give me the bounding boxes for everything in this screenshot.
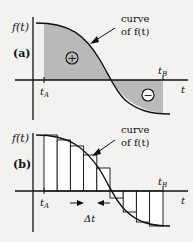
y-axis-label-a: f(t) [11,21,29,34]
delta-right-arrowhead [97,200,104,206]
rectangle [97,168,110,191]
x-axis-label-b: t [181,195,186,206]
curve-label-b-line1: curve [121,124,149,135]
t-b-label-a: tB [158,65,167,78]
integral-diagram: + − f(t) (a) curve of f(t) tA tB t [0,0,193,242]
rectangle [44,135,57,191]
plus-symbol: + [67,52,76,65]
arrowhead-b [92,148,101,156]
t-a-label-a: tA [40,86,49,99]
rectangle [123,191,136,212]
curve-label-a-line2: of f(t) [121,26,150,37]
delta-left-arrowhead [77,200,84,206]
rectangle [136,191,149,222]
panel-b: f(t) (b) curve of f(t) tA tB t Δt [11,124,188,232]
x-axis-label-a: t [181,84,186,95]
rectangle [70,146,83,191]
rectangle [150,191,163,226]
diagram-canvas: + − f(t) (a) curve of f(t) tA tB t [0,0,193,242]
curve-label-b-line2: of f(t) [121,137,150,148]
positive-area [44,23,112,80]
rectangle [57,140,70,191]
delta-t-label: Δt [83,213,96,224]
panel-a-label: (a) [13,47,31,60]
panel-a: + − f(t) (a) curve of f(t) tA tB t [11,13,188,120]
y-axis-label-b: f(t) [11,132,29,145]
curve-label-a-line1: curve [121,13,149,24]
t-a-label-b: tA [40,197,49,210]
panel-b-label: (b) [13,158,31,171]
rectangle [84,155,97,191]
arrowhead-a [90,36,99,44]
minus-symbol: − [143,89,152,102]
t-b-label-b: tB [158,176,167,189]
